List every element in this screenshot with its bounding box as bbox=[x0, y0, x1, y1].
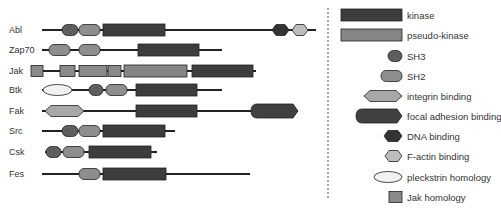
legend-label: F-actin binding bbox=[407, 151, 469, 162]
legend-item-pseudo-kinase: pseudo-kinase bbox=[341, 29, 469, 41]
SH3-domain bbox=[62, 25, 78, 36]
legend-item-SH3: SH3 bbox=[388, 51, 425, 62]
legend-label: pseudo-kinase bbox=[407, 30, 469, 41]
kinase-domain bbox=[341, 9, 402, 21]
protein-label: Abl bbox=[9, 25, 22, 35]
protein-label: Src bbox=[9, 126, 23, 136]
SH2-domain bbox=[49, 45, 70, 56]
SH2-domain bbox=[79, 169, 100, 180]
jak-homology-domain bbox=[389, 192, 402, 203]
kinase-domain bbox=[192, 65, 253, 77]
SH2-domain bbox=[106, 85, 127, 96]
F-actin-binding-domain bbox=[385, 151, 402, 162]
SH2-domain bbox=[79, 25, 100, 36]
protein-rows: AblZap70JakBtkFakSrcCskFes bbox=[9, 24, 316, 180]
protein-row-zap70: Zap70 bbox=[9, 44, 222, 56]
focal-adhesion-binding-domain bbox=[251, 104, 298, 118]
protein-row-csk: Csk bbox=[9, 146, 157, 158]
protein-label: Btk bbox=[9, 85, 23, 95]
protein-row-fes: Fes bbox=[9, 168, 250, 180]
jak-homology-domain bbox=[60, 66, 75, 77]
kinase-domain bbox=[136, 84, 197, 96]
legend-item-pleckstrin-homology: pleckstrin homology bbox=[374, 172, 491, 183]
kinase-domain bbox=[138, 44, 199, 56]
protein-label: Fak bbox=[9, 106, 25, 116]
protein-row-btk: Btk bbox=[9, 84, 222, 96]
kinase-domain bbox=[103, 168, 166, 180]
pleckstrin-homology-domain bbox=[43, 85, 72, 96]
legend-item-SH2: SH2 bbox=[381, 71, 425, 82]
jak-homology-domain bbox=[79, 66, 107, 77]
protein-label: Jak bbox=[9, 66, 24, 76]
legend-label: integrin binding bbox=[407, 91, 471, 102]
kinase-domain-diagram: AblZap70JakBtkFakSrcCskFes kinasepseudo-… bbox=[0, 0, 501, 215]
legend-item-DNA-binding: DNA binding bbox=[384, 131, 460, 142]
protein-label: Csk bbox=[9, 147, 25, 157]
legend-item-kinase: kinase bbox=[341, 9, 434, 21]
legend-label: DNA binding bbox=[407, 131, 460, 142]
SH3-domain bbox=[388, 51, 402, 62]
F-actin-binding-domain bbox=[292, 25, 308, 36]
legend-label: pleckstrin homology bbox=[407, 172, 491, 183]
legend-label: SH2 bbox=[407, 71, 425, 82]
SH2-domain bbox=[381, 71, 402, 82]
legend-label: kinase bbox=[407, 10, 434, 21]
focal-adhesion-binding-domain bbox=[356, 109, 402, 123]
SH2-domain bbox=[79, 45, 100, 56]
legend: kinasepseudo-kinaseSH3SH2integrin bindin… bbox=[341, 9, 501, 203]
pleckstrin-homology-domain bbox=[374, 172, 402, 183]
SH2-domain bbox=[63, 147, 84, 158]
integrin-binding-domain bbox=[364, 91, 402, 102]
protein-row-fak: Fak bbox=[9, 104, 298, 118]
kinase-domain bbox=[103, 24, 165, 36]
integrin-binding-domain bbox=[45, 106, 84, 117]
SH3-domain bbox=[46, 147, 61, 158]
jak-homology-domain bbox=[108, 66, 121, 77]
kinase-domain bbox=[103, 125, 165, 137]
kinase-domain bbox=[136, 105, 197, 117]
legend-label: Jak homology bbox=[407, 192, 466, 203]
SH3-domain bbox=[62, 126, 78, 137]
kinase-domain bbox=[89, 146, 151, 158]
protein-row-jak: Jak bbox=[9, 65, 256, 77]
protein-label: Fes bbox=[9, 169, 25, 179]
jak-homology-domain bbox=[31, 66, 43, 77]
legend-item-jak-homology: Jak homology bbox=[389, 192, 466, 203]
legend-label: SH3 bbox=[407, 51, 425, 62]
legend-item-integrin-binding: integrin binding bbox=[364, 91, 471, 102]
pseudo-kinase-domain bbox=[341, 29, 402, 41]
protein-row-abl: Abl bbox=[9, 24, 316, 36]
legend-label: focal adhesion binding bbox=[407, 111, 501, 122]
SH2-domain bbox=[79, 126, 100, 137]
legend-item-F-actin-binding: F-actin binding bbox=[385, 151, 469, 162]
protein-label: Zap70 bbox=[9, 45, 35, 55]
SH3-domain bbox=[89, 85, 103, 96]
protein-row-src: Src bbox=[9, 125, 175, 137]
pseudo-kinase-domain bbox=[124, 65, 187, 77]
legend-item-focal-adhesion-binding: focal adhesion binding bbox=[356, 109, 501, 123]
DNA-binding-domain bbox=[272, 25, 289, 36]
DNA-binding-domain bbox=[384, 131, 402, 142]
